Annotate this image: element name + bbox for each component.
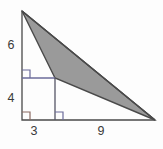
right-angle-mark-bottom-inner	[55, 112, 63, 120]
label-side-3: 3	[31, 124, 38, 138]
right-angle-mark-bottom-left	[22, 112, 30, 120]
geometry-diagram: 6 4 3 9	[0, 0, 163, 149]
outer-hypotenuse	[22, 11, 155, 120]
label-side-4: 4	[8, 91, 15, 105]
label-side-9: 9	[98, 124, 105, 138]
right-angle-mark-upper-left	[22, 70, 30, 78]
label-side-6: 6	[8, 38, 15, 52]
geometry-figure: 6 4 3 9	[0, 0, 163, 149]
